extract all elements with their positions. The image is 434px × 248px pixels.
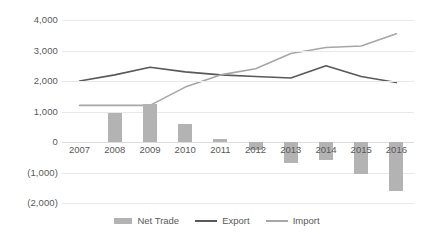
legend-item-import[interactable]: Import: [266, 215, 320, 227]
net-trade-bar-2010: [178, 124, 192, 142]
gridline: [62, 20, 414, 21]
gridline: [62, 51, 414, 52]
x-axis-tick-label-2011: 2011: [210, 144, 230, 156]
y-axis-tick-label: 3,000: [2, 46, 58, 56]
plot-area: [62, 20, 414, 203]
y-axis: 4,0003,0002,0001,0000(1,000)(2,000): [0, 20, 58, 203]
x-axis-tick-label-2016: 2016: [386, 144, 407, 156]
y-axis-tick-label: 0: [2, 137, 58, 147]
net-trade-bar-2011: [213, 139, 227, 142]
gridline: [62, 203, 414, 204]
y-axis-tick-label: (2,000): [2, 198, 58, 208]
x-axis-tick-label-2007: 2007: [69, 144, 90, 156]
x-axis-tick-label-2008: 2008: [104, 144, 125, 156]
x-axis-tick-label-2009: 2009: [139, 144, 160, 156]
legend-bar-swatch-icon: [114, 218, 132, 224]
x-axis-tick-label-2010: 2010: [175, 144, 196, 156]
legend-line-swatch-icon: [266, 220, 288, 222]
legend-item-net-trade[interactable]: Net Trade: [114, 215, 179, 227]
y-axis-tick-label: 1,000: [2, 107, 58, 117]
chart-legend: Net TradeExportImport: [0, 212, 434, 230]
x-axis-tick-label-2012: 2012: [245, 144, 266, 156]
legend-line-swatch-icon: [195, 220, 217, 222]
gridline: [62, 81, 414, 82]
y-axis-tick-label: 2,000: [2, 76, 58, 86]
net-trade-bar-2008: [108, 113, 122, 142]
net-trade-bar-2009: [143, 104, 157, 142]
legend-label: Export: [222, 215, 249, 227]
export-line: [80, 66, 397, 83]
x-axis-tick-label-2015: 2015: [351, 144, 372, 156]
y-axis-tick-label: 4,000: [2, 15, 58, 25]
net-trade-chart: 4,0003,0002,0001,0000(1,000)(2,000) 2007…: [0, 0, 434, 248]
legend-item-export[interactable]: Export: [195, 215, 249, 227]
legend-label: Import: [293, 215, 320, 227]
legend-label: Net Trade: [137, 215, 179, 227]
x-axis-tick-label-2014: 2014: [315, 144, 336, 156]
x-axis: 2007200820092010201120122013201420152016: [62, 144, 414, 158]
y-axis-tick-label: (1,000): [2, 168, 58, 178]
x-axis-tick-label-2013: 2013: [280, 144, 301, 156]
import-line: [80, 34, 397, 106]
